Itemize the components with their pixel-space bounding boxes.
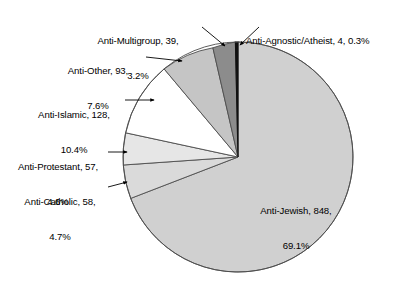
- slice-label-anti-jewish-line2: 69.1%: [238, 240, 354, 252]
- slice-label-anti-agnostic-atheist: Anti-Agnostic/Atheist, 4, 0.3%: [246, 12, 402, 70]
- slice-label-anti-catholic: Anti-Catholic, 58, 4.7%: [10, 173, 110, 266]
- slice-label-anti-islamic-line1: Anti-Islamic, 128,: [22, 109, 126, 121]
- slice-label-anti-jewish: Anti-Jewish, 848, 69.1%: [238, 182, 354, 275]
- slice-label-anti-agnostic-atheist-line1: Anti-Agnostic/Atheist, 4, 0.3%: [246, 35, 402, 47]
- pie-chart-figure: Anti-Multigroup, 39, 3.2% Anti-Agnostic/…: [0, 0, 402, 290]
- slice-label-anti-protestant-line1: Anti-Protestant, 57,: [6, 161, 110, 173]
- slice-label-anti-other-line1: Anti-Other, 93,: [50, 65, 146, 77]
- slice-label-anti-catholic-line1: Anti-Catholic, 58,: [10, 196, 110, 208]
- slice-label-anti-jewish-line1: Anti-Jewish, 848,: [238, 205, 354, 217]
- slice-label-anti-catholic-line2: 4.7%: [10, 231, 110, 243]
- leader-anti-multigroup: [202, 27, 225, 46]
- leader-anti-catholic: [108, 182, 127, 187]
